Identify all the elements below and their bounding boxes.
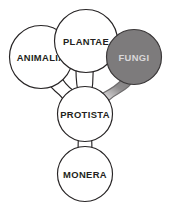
node-protista[interactable]: PROTISTA — [58, 87, 113, 142]
node-fungi-label: FUNGI — [119, 52, 150, 63]
node-monera[interactable]: MONERA — [58, 147, 113, 202]
node-fungi[interactable]: FUNGI — [107, 30, 162, 85]
kingdom-tree-diagram: PROTISTA MONERA ANIMALIA PLANTAE FUNGI — [0, 0, 169, 215]
kingdom-tree-canvas: PROTISTA MONERA ANIMALIA PLANTAE FUNGI — [0, 0, 169, 215]
node-protista-label: PROTISTA — [60, 109, 110, 120]
node-monera-label: MONERA — [63, 169, 107, 180]
node-plantae-label: PLANTAE — [63, 36, 109, 47]
